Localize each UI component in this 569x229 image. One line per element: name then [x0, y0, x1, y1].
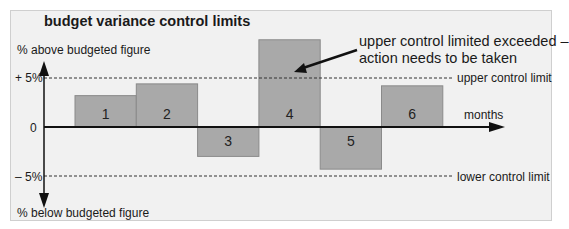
y-axis-up-arrow-icon [39, 61, 49, 76]
bar-label: 1 [102, 106, 110, 122]
bar-label: 6 [408, 106, 416, 122]
y-axis-down-arrow-icon [39, 193, 49, 208]
x-axis-arrow-icon [489, 122, 505, 132]
bar-label: 5 [347, 133, 355, 149]
bar-label: 2 [163, 106, 171, 122]
bar-label: 4 [286, 106, 294, 122]
bar-label: 3 [224, 133, 232, 149]
